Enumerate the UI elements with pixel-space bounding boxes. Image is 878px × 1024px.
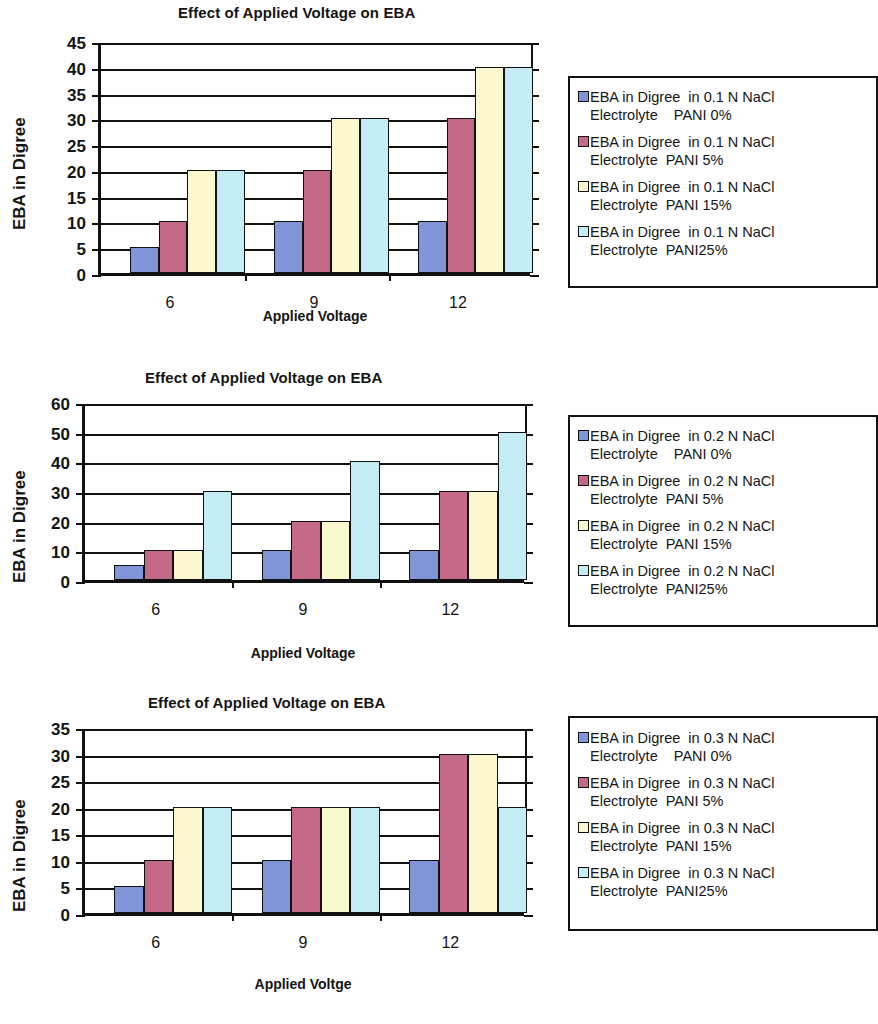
legend-label: EBA in Digree in 0.2 N NaCl Electrolyte … — [590, 562, 775, 598]
y-axis-tick-label: 0 — [30, 267, 86, 284]
legend-label: EBA in Digree in 0.3 N NaCl Electrolyte … — [590, 864, 775, 900]
y-axis-tick-label: 35 — [14, 721, 70, 738]
gridline — [85, 729, 524, 731]
legend-label: EBA in Digree in 0.1 N NaCl Electrolyte … — [590, 178, 775, 214]
legend: EBA in Digree in 0.1 N NaCl Electrolyte … — [568, 76, 878, 288]
legend-swatch-icon — [578, 867, 589, 878]
y-axis-tick-label: 10 — [14, 854, 70, 871]
y-axis-tick — [76, 463, 85, 465]
x-axis-tick — [380, 913, 382, 921]
y-axis-tick-label: 5 — [14, 880, 70, 897]
x-axis-tick — [232, 913, 234, 921]
legend-label: EBA in Digree in 0.3 N NaCl Electrolyte … — [590, 774, 775, 810]
legend-swatch-icon — [578, 181, 589, 192]
bar — [409, 550, 438, 580]
legend-swatch-icon — [578, 475, 589, 486]
x-axis-label: Applied Voltage — [148, 645, 458, 661]
legend-item: EBA in Digree in 0.1 N NaCl Electrolyte … — [578, 178, 876, 214]
legend-swatch-icon — [578, 91, 589, 102]
legend-label: EBA in Digree in 0.2 N NaCl Electrolyte … — [590, 427, 775, 463]
y-axis-tick-label: 20 — [14, 515, 70, 532]
y-axis-tick — [92, 69, 101, 71]
y-axis-tick-label: 20 — [30, 164, 86, 181]
legend-item: EBA in Digree in 0.3 N NaCl Electrolyte … — [578, 864, 876, 900]
y-axis-tick-label: 50 — [14, 426, 70, 443]
x-axis-tick-label: 6 — [130, 294, 210, 312]
y-axis-tick — [76, 888, 85, 890]
bar — [439, 491, 468, 580]
y-axis-tick — [92, 198, 101, 200]
y-axis-tick-label: 15 — [30, 190, 86, 207]
y-axis-tick — [76, 493, 85, 495]
y-axis-tick — [92, 275, 101, 277]
bar — [331, 118, 360, 273]
y-axis-tick — [76, 552, 85, 554]
bar — [114, 565, 143, 580]
y-axis-tick-label: 45 — [30, 35, 86, 52]
bar — [173, 807, 202, 913]
chart-title: Effect of Applied Voltage on EBA — [148, 694, 385, 711]
y-axis-tick-label: 25 — [30, 138, 86, 155]
y-axis-tick-right — [524, 404, 533, 406]
legend-swatch-icon — [578, 226, 589, 237]
y-axis-tick — [76, 756, 85, 758]
chart-panel-1: Effect of Applied Voltage on EBA EBA in … — [0, 0, 866, 345]
y-axis-tick-label: 0 — [14, 907, 70, 924]
legend-item: EBA in Digree in 0.3 N NaCl Electrolyte … — [578, 819, 876, 855]
legend-label: EBA in Digree in 0.1 N NaCl Electrolyte … — [590, 88, 775, 124]
legend-item: EBA in Digree in 0.1 N NaCl Electrolyte … — [578, 88, 876, 124]
y-axis-tick-label: 35 — [30, 87, 86, 104]
y-axis-tick-right — [524, 915, 533, 917]
x-axis-tick-label: 9 — [263, 601, 343, 619]
x-axis-label: Applied Voltge — [148, 976, 458, 992]
x-axis-tick — [245, 273, 247, 281]
legend-item: EBA in Digree in 0.2 N NaCl Electrolyte … — [578, 427, 876, 463]
y-axis-tick-label: 5 — [30, 241, 86, 258]
y-axis-tick — [92, 95, 101, 97]
y-axis-tick-label: 30 — [30, 112, 86, 129]
x-axis-tick-label: 9 — [274, 294, 354, 312]
bar — [262, 550, 291, 580]
x-axis-tick — [389, 273, 391, 281]
gridline — [101, 95, 530, 97]
y-axis-tick-right — [524, 729, 533, 731]
plot-area — [82, 730, 524, 916]
y-axis-tick-right — [530, 43, 539, 45]
gridline — [101, 43, 530, 45]
legend-label: EBA in Digree in 0.1 N NaCl Electrolyte … — [590, 133, 775, 169]
plot-area — [98, 44, 530, 276]
y-axis-tick — [92, 249, 101, 251]
bar — [498, 807, 527, 913]
y-axis-tick-label: 15 — [14, 827, 70, 844]
bar — [350, 461, 379, 580]
y-axis-tick — [76, 523, 85, 525]
bar — [291, 521, 320, 580]
legend-swatch-icon — [578, 430, 589, 441]
y-axis-tick-label: 25 — [14, 774, 70, 791]
y-axis-tick-right — [524, 756, 533, 758]
x-axis-tick — [232, 580, 234, 588]
plot-area — [82, 405, 524, 583]
x-axis-tick-label: 9 — [263, 934, 343, 952]
legend-item: EBA in Digree in 0.2 N NaCl Electrolyte … — [578, 472, 876, 508]
bar — [203, 807, 232, 913]
y-axis-tick-right — [524, 582, 533, 584]
bar — [447, 118, 476, 273]
x-axis-tick-label: 12 — [410, 934, 490, 952]
y-axis-tick-label: 0 — [14, 574, 70, 591]
y-axis-tick — [76, 809, 85, 811]
y-axis-tick-label: 20 — [14, 801, 70, 818]
legend-label: EBA in Digree in 0.1 N NaCl Electrolyte … — [590, 223, 775, 259]
legend-item: EBA in Digree in 0.2 N NaCl Electrolyte … — [578, 517, 876, 553]
chart-title: Effect of Applied Voltage on EBA — [178, 4, 415, 21]
bar — [262, 860, 291, 913]
legend-swatch-icon — [578, 565, 589, 576]
bar — [409, 860, 438, 913]
chart-panel-2: Effect of Applied Voltage on EBA EBA in … — [0, 355, 866, 685]
legend-item: EBA in Digree in 0.2 N NaCl Electrolyte … — [578, 562, 876, 598]
bar — [303, 170, 332, 273]
x-axis-tick-label: 12 — [410, 601, 490, 619]
bar — [274, 221, 303, 273]
bar — [144, 550, 173, 580]
